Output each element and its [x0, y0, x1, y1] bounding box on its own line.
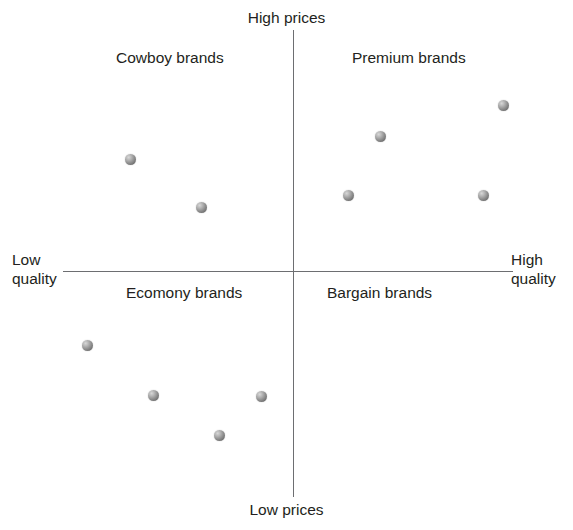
axis-label-low-quality: Low quality	[12, 250, 57, 288]
axis-label-left-line1: Low	[12, 250, 57, 269]
brand-positioning-matrix: High prices Low prices Low quality High …	[0, 0, 573, 530]
data-point-marker	[148, 390, 159, 401]
data-point-marker	[343, 190, 354, 201]
data-point-marker	[196, 202, 207, 213]
quadrant-label-premium-brands: Premium brands	[352, 48, 466, 67]
axis-label-right-line1: High	[511, 250, 556, 269]
axis-label-bottom-text: Low prices	[0, 500, 573, 519]
axis-label-right-line2: quality	[511, 269, 556, 288]
axis-label-high-quality: High quality	[511, 250, 556, 288]
quadrant-label-bargain-brands: Bargain brands	[327, 283, 432, 302]
data-point-marker	[256, 391, 267, 402]
data-point-marker	[214, 430, 225, 441]
axis-label-high-prices: High prices	[0, 8, 573, 27]
horizontal-axis-line	[63, 271, 513, 272]
data-point-marker	[82, 340, 93, 351]
axis-label-low-prices: Low prices	[0, 500, 573, 519]
data-point-marker	[478, 190, 489, 201]
quadrant-label-cowboy-brands: Cowboy brands	[116, 48, 224, 67]
axis-label-left-line2: quality	[12, 269, 57, 288]
vertical-axis-line	[293, 30, 294, 497]
axis-label-top-text: High prices	[0, 8, 573, 27]
quadrant-label-ecomony-brands: Ecomony brands	[126, 283, 242, 302]
data-point-marker	[375, 131, 386, 142]
data-point-marker	[498, 100, 509, 111]
data-point-marker	[125, 154, 136, 165]
